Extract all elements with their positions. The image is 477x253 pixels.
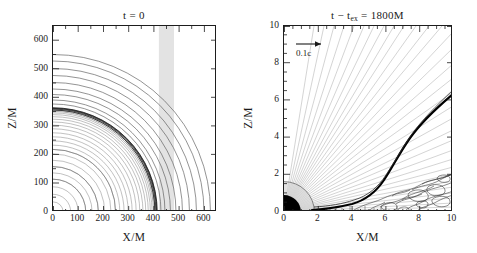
- panel-left-ytick-600: 600: [22, 34, 48, 44]
- panel-right-xtick-6: 6: [383, 213, 388, 223]
- panel-right-ytick-2: 2: [257, 168, 279, 178]
- panel-left-yaxis-label: Z/M: [6, 88, 18, 148]
- panel-right: t − tex = 1800M: [239, 0, 477, 253]
- panel-right-xtick-2: 2: [315, 213, 320, 223]
- panel-right-ytick-10: 10: [257, 20, 279, 30]
- panel-left-ytick-300: 300: [22, 120, 48, 130]
- panel-left-xtick-300: 300: [121, 213, 135, 223]
- panel-left-xtick-0: 0: [50, 213, 55, 223]
- panel-left-xaxis-label: X/M: [52, 231, 216, 243]
- panel-left-xtick-100: 100: [70, 213, 84, 223]
- panel-right-xtick-10: 10: [447, 213, 457, 223]
- panel-left-plot-area: [52, 25, 216, 211]
- panel-left-ticks: [53, 26, 216, 211]
- panel-right-xtick-8: 8: [416, 213, 421, 223]
- panel-right-title-subscript: ex: [350, 14, 358, 23]
- panel-left-xtick-400: 400: [146, 213, 160, 223]
- panel-right-xtick-4: 4: [349, 213, 354, 223]
- panel-right-ytick-8: 8: [257, 57, 279, 67]
- panel-left: t = 0: [0, 0, 239, 253]
- panel-left-title: t = 0: [52, 9, 216, 21]
- panel-right-title-main: t − t: [331, 9, 350, 21]
- panel-right-ytick-0: 0: [257, 206, 279, 216]
- panel-right-title: t − tex = 1800M: [283, 9, 452, 23]
- panel-right-xtick-0: 0: [281, 213, 286, 223]
- panel-left-ytick-0: 0: [22, 206, 48, 216]
- panel-left-ytick-400: 400: [22, 91, 48, 101]
- panel-left-xtick-200: 200: [95, 213, 109, 223]
- panel-right-ytick-4: 4: [257, 131, 279, 141]
- panel-right-ytick-6: 6: [257, 94, 279, 104]
- panel-right-title-tail: = 1800M: [358, 9, 404, 21]
- panel-left-ytick-500: 500: [22, 63, 48, 73]
- velocity-scale-label: 0.1c: [296, 48, 311, 58]
- panel-right-plot-area: 0.1c: [283, 25, 452, 211]
- panel-left-xtick-600: 600: [196, 213, 210, 223]
- figure-root: t = 0: [0, 0, 477, 253]
- panel-left-ytick-100: 100: [22, 177, 48, 187]
- panel-right-yaxis-label: Z/M: [242, 88, 254, 148]
- panel-left-xtick-500: 500: [171, 213, 185, 223]
- panel-left-ytick-200: 200: [22, 148, 48, 158]
- panel-right-xaxis-label: X/M: [283, 231, 452, 243]
